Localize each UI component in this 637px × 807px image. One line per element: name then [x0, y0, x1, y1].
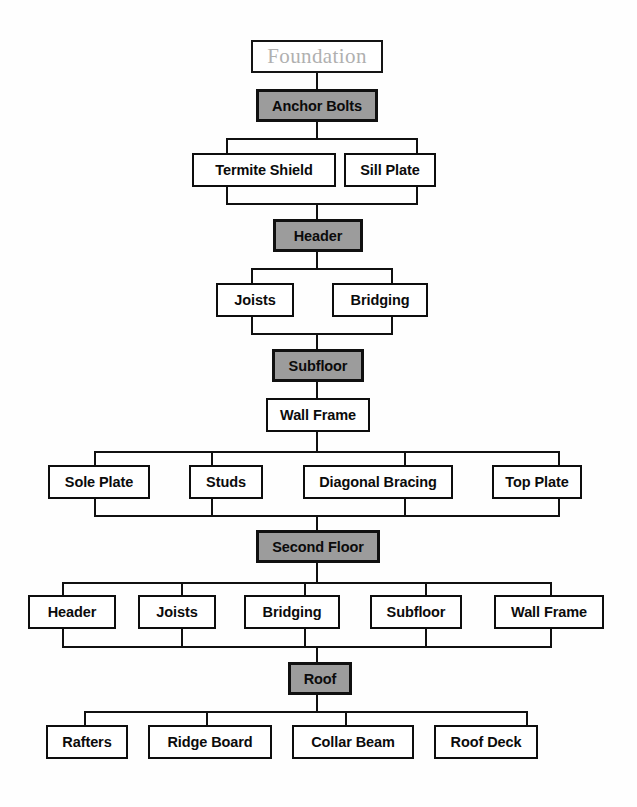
node-label: Subfloor	[387, 604, 446, 620]
node-label: Wall Frame	[511, 604, 587, 620]
connector-bus-merge-header	[226, 203, 418, 205]
connector-roof-stem	[316, 695, 318, 712]
connector-riser-diagonal-bracing	[404, 499, 406, 516]
connector-anchor-bolts-stem	[316, 122, 318, 139]
node-rafters[interactable]: Rafters	[46, 725, 128, 759]
node-label: Header	[48, 604, 97, 620]
connector-to-second-floor	[316, 515, 318, 531]
node-joists-2[interactable]: Joists	[138, 595, 216, 629]
connector-riser-top-plate	[558, 499, 560, 516]
node-anchor-bolts[interactable]: Anchor Bolts	[256, 89, 378, 122]
connector-drop-termite-shield	[226, 138, 228, 154]
node-label: Diagonal Bracing	[319, 474, 437, 490]
connector-drop-sill-plate	[416, 138, 418, 154]
connector-drop-bridging	[391, 268, 393, 284]
node-bridging-2[interactable]: Bridging	[244, 595, 340, 629]
node-label: Sill Plate	[360, 162, 419, 178]
node-termite-shield[interactable]: Termite Shield	[192, 153, 336, 187]
node-label: Bridging	[351, 292, 410, 308]
connector-bus-merge-subfloor	[251, 333, 393, 335]
connector-drop-roof-deck	[526, 711, 528, 726]
node-label: Termite Shield	[215, 162, 312, 178]
connector-riser-header-2	[62, 629, 64, 647]
node-label: Rafters	[62, 734, 111, 750]
connector-drop-bridging-2	[304, 582, 306, 596]
connector-bus-merge-second-floor	[94, 515, 560, 517]
node-label: Bridging	[263, 604, 322, 620]
node-label: Subfloor	[289, 358, 348, 374]
connector-riser-subfloor-2	[425, 629, 427, 647]
connector-riser-studs	[211, 499, 213, 516]
node-label: Top Plate	[505, 474, 568, 490]
node-label: Roof	[304, 671, 337, 687]
node-label: Joists	[234, 292, 275, 308]
node-subfloor[interactable]: Subfloor	[272, 349, 364, 382]
node-sill-plate[interactable]: Sill Plate	[344, 153, 436, 187]
node-label: Second Floor	[272, 539, 363, 555]
connector-to-header	[316, 203, 318, 220]
node-roof-deck[interactable]: Roof Deck	[434, 725, 538, 759]
connector-bus-joists-bridging	[251, 268, 393, 270]
connector-to-subfloor	[316, 333, 318, 350]
node-label: Roof Deck	[451, 734, 522, 750]
connector-riser-sill-plate	[416, 187, 418, 204]
connector-bus-wall-components	[94, 451, 560, 453]
connector-drop-joists	[251, 268, 253, 284]
connector-header-stem	[316, 252, 318, 269]
connector-subfloor-to-wall-frame	[316, 382, 318, 399]
node-header-2[interactable]: Header	[28, 595, 116, 629]
node-label: Ridge Board	[167, 734, 252, 750]
connector-riser-termite-shield	[226, 187, 228, 204]
connector-bus-top-row-1	[226, 138, 418, 140]
node-wall-frame[interactable]: Wall Frame	[266, 398, 370, 432]
node-joists[interactable]: Joists	[216, 283, 294, 317]
node-label: Header	[294, 228, 343, 244]
connector-drop-subfloor-2	[425, 582, 427, 596]
connector-drop-top-plate	[558, 451, 560, 466]
connector-riser-sole-plate	[94, 499, 96, 516]
node-wall-frame-2[interactable]: Wall Frame	[494, 595, 604, 629]
node-label: Collar Beam	[311, 734, 395, 750]
connector-drop-rafters	[84, 711, 86, 726]
connector-drop-header-2	[62, 582, 64, 596]
node-diagonal-bracing[interactable]: Diagonal Bracing	[303, 465, 453, 499]
connector-wall-frame-stem	[316, 432, 318, 452]
node-label: Anchor Bolts	[272, 98, 362, 114]
connector-riser-wall-frame-2	[550, 629, 552, 647]
node-bridging[interactable]: Bridging	[332, 283, 428, 317]
connector-riser-bridging-2	[304, 629, 306, 647]
node-ridge-board[interactable]: Ridge Board	[148, 725, 272, 759]
node-second-floor[interactable]: Second Floor	[256, 530, 380, 563]
node-subfloor-2[interactable]: Subfloor	[370, 595, 462, 629]
connector-riser-joists	[251, 317, 253, 334]
connector-second-floor-stem	[316, 563, 318, 583]
node-sole-plate[interactable]: Sole Plate	[48, 465, 150, 499]
node-studs[interactable]: Studs	[189, 465, 263, 499]
connector-riser-joists-2	[181, 629, 183, 647]
node-label: Foundation	[267, 44, 367, 69]
connector-riser-bridging	[391, 317, 393, 334]
node-header[interactable]: Header	[273, 219, 363, 252]
node-label: Studs	[206, 474, 246, 490]
node-label: Sole Plate	[65, 474, 133, 490]
node-roof[interactable]: Roof	[288, 662, 352, 695]
connector-bus-second-floor-components	[62, 582, 552, 584]
connector-drop-joists-2	[181, 582, 183, 596]
connector-bus-roof-components	[84, 711, 526, 713]
construction-flowchart: Foundation Anchor Bolts Termite Shield S…	[0, 0, 637, 807]
node-collar-beam[interactable]: Collar Beam	[292, 725, 414, 759]
connector-drop-diagonal-bracing	[404, 451, 406, 466]
connector-drop-sole-plate	[94, 451, 96, 466]
connector-drop-ridge-board	[206, 711, 208, 726]
connector-drop-wall-frame-2	[550, 582, 552, 596]
node-foundation[interactable]: Foundation	[251, 40, 383, 73]
node-label: Wall Frame	[280, 407, 356, 423]
connector-drop-studs	[211, 451, 213, 466]
connector-drop-collar-beam	[345, 711, 347, 726]
node-top-plate[interactable]: Top Plate	[492, 465, 582, 499]
connector-to-roof	[316, 646, 318, 663]
node-label: Joists	[156, 604, 197, 620]
connector-bus-merge-roof	[62, 646, 552, 648]
